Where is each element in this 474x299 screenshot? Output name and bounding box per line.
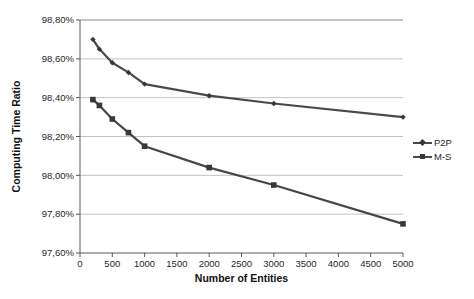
x-tick-label: 1000 xyxy=(134,258,155,269)
x-tick-label: 4000 xyxy=(328,258,349,269)
y-tick-label: 97,60% xyxy=(42,247,75,258)
y-gridlines xyxy=(80,20,403,214)
x-tick-label: 2500 xyxy=(231,258,252,269)
x-tick-label: 3500 xyxy=(296,258,317,269)
p2p-series-marker-icon xyxy=(413,138,432,147)
y-tick-label: 98,20% xyxy=(42,131,75,142)
data-point-square xyxy=(400,221,406,227)
data-point-square xyxy=(142,143,148,149)
x-tick-label: 0 xyxy=(77,258,82,269)
data-point-square xyxy=(126,130,132,136)
computing-time-ratio-chart: 97,60%97,80%98,00%98,20%98,40%98,60%98,8… xyxy=(0,0,474,299)
y-tick-label: 98,60% xyxy=(42,53,75,64)
y-axis-ticks: 97,60%97,80%98,00%98,20%98,40%98,60%98,8… xyxy=(42,14,80,258)
series-p2p xyxy=(90,37,405,120)
data-point-diamond xyxy=(271,101,276,106)
data-point-square xyxy=(90,97,96,103)
series-line xyxy=(93,100,403,224)
legend-label-ms: M-S xyxy=(434,151,451,162)
legend: P2P M-S xyxy=(413,137,452,162)
legend-label-p2p: P2P xyxy=(434,137,452,148)
x-axis-ticks: 0500100015002000250030003500400045005000 xyxy=(77,253,413,269)
y-tick-label: 98,00% xyxy=(42,170,75,181)
data-point-square xyxy=(271,182,277,188)
y-axis-title: Computing Time Ratio xyxy=(10,81,22,193)
x-tick-label: 500 xyxy=(104,258,120,269)
x-tick-label: 1500 xyxy=(166,258,187,269)
series-m-s xyxy=(90,97,406,227)
x-axis-title: Number of Entities xyxy=(195,272,289,284)
data-point-square xyxy=(206,165,212,171)
chart-canvas: 97,60%97,80%98,00%98,20%98,40%98,60%98,8… xyxy=(0,0,474,299)
x-tick-label: 3000 xyxy=(263,258,284,269)
legend-item-p2p: P2P xyxy=(413,137,452,148)
data-point-square xyxy=(97,103,103,109)
ms-series-marker-icon xyxy=(413,152,432,161)
x-tick-label: 2000 xyxy=(199,258,220,269)
y-tick-label: 98,40% xyxy=(42,92,75,103)
series-line xyxy=(93,39,403,117)
x-tick-label: 5000 xyxy=(392,258,413,269)
legend-item-ms: M-S xyxy=(413,151,452,162)
y-tick-label: 98,80% xyxy=(42,14,75,25)
x-tick-label: 4500 xyxy=(360,258,381,269)
y-tick-label: 97,80% xyxy=(42,208,75,219)
data-point-square xyxy=(110,116,116,122)
data-point-diamond xyxy=(400,114,405,119)
